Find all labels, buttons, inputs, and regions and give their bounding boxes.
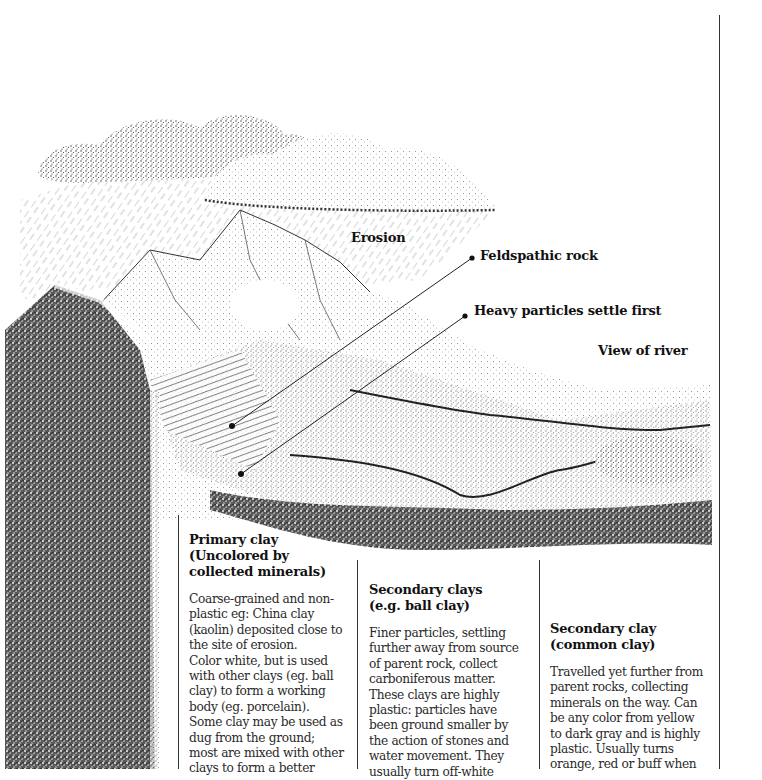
caption-title: Secondary clays (e.g. ball clay) — [369, 582, 539, 614]
caption-title: Primary clay (Uncolored by collected min… — [189, 532, 357, 580]
caption-body: Coarse-grained and non- plastic eg: Chin… — [189, 592, 357, 777]
caption-primary-clay: Primary clay (Uncolored by collected min… — [189, 532, 357, 777]
caption-secondary-common-clay: Secondary clay (common clay) Travelled y… — [550, 621, 720, 773]
column-rule-1 — [178, 515, 179, 769]
caption-secondary-ball-clay: Secondary clays (e.g. ball clay) Finer p… — [369, 582, 539, 780]
caption-body: Travelled yet further from parent rocks,… — [550, 665, 720, 773]
label-erosion: Erosion — [351, 230, 405, 245]
column-rule-3 — [539, 560, 540, 769]
river-delta — [595, 435, 705, 485]
caption-title: Secondary clay (common clay) — [550, 621, 720, 653]
caption-body: Finer particles, settling further away f… — [369, 626, 539, 780]
cliff-left — [5, 285, 155, 769]
label-heavy-particles: Heavy particles settle first — [474, 303, 661, 318]
label-view-of-river: View of river — [598, 343, 687, 358]
column-rule-2 — [357, 560, 358, 769]
label-feldspathic-rock: Feldspathic rock — [480, 248, 598, 263]
